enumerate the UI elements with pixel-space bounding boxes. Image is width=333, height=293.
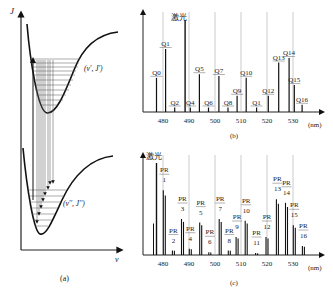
- y-axis-label: J: [10, 6, 15, 16]
- spectral-peak: PR10: [241, 197, 251, 255]
- peak-label: Q15: [288, 76, 301, 84]
- x-tick-label: 520: [262, 260, 273, 268]
- panel-b-q-branch-spectrum: Q0Q1Q2Q4Q5Q6Q7Q8Q9Q10Q1Q12Q13Q14Q15Q16 4…: [143, 12, 322, 140]
- peak-label: PR: [252, 229, 261, 237]
- emission-transitions: [37, 60, 53, 222]
- spectral-peak: PR11: [252, 229, 262, 255]
- x-tick-label: 510: [236, 117, 247, 125]
- upper-state-label: (v', J'): [84, 64, 103, 73]
- peak-label: PR: [282, 179, 291, 187]
- peak-label: Q6: [204, 99, 213, 107]
- x-tick-label: 490: [184, 117, 195, 125]
- spectral-peak: Q1: [251, 99, 263, 113]
- peak-number: 15: [291, 211, 299, 219]
- x-tick-label: 500: [210, 260, 221, 268]
- peak-label: PR: [169, 227, 178, 235]
- spectral-peak: PR8: [224, 227, 234, 256]
- spectral-peak: Q12: [262, 87, 275, 112]
- spectral-peak: PR16: [298, 222, 308, 255]
- peak-number: 4: [189, 235, 193, 243]
- peak-label: Q16: [296, 96, 309, 104]
- spectral-peak: PR7: [215, 195, 225, 255]
- peak-number: 11: [253, 239, 260, 247]
- peak-number: 5: [199, 209, 203, 217]
- peak-label: PR: [186, 225, 195, 233]
- spectroscopy-figure: J v (v', J') (v: [0, 0, 333, 293]
- spectral-peak: PR9: [232, 213, 242, 255]
- spectral-peak: Q13: [273, 54, 286, 113]
- spectral-peak: PR2: [168, 227, 178, 256]
- lower-state-label: (v'', J''): [63, 199, 85, 208]
- spectral-peak: Q10: [240, 69, 253, 112]
- spectral-peak: Q4: [184, 99, 196, 113]
- spectral-peak: Q16: [296, 96, 309, 112]
- x-tick-label: 500: [210, 117, 221, 125]
- peak-label: Q12: [262, 87, 275, 95]
- peak-label: PR: [178, 195, 187, 203]
- spectral-peak: PR15: [289, 201, 299, 255]
- peak-number: 7: [218, 205, 222, 213]
- peak-label: Q10: [240, 69, 253, 77]
- peak-number: 6: [208, 238, 212, 246]
- peak-number: 3: [181, 205, 185, 213]
- spectral-peak: PR5: [196, 199, 206, 255]
- panel-a-caption: (a): [60, 274, 69, 283]
- peak-label: Q14: [283, 49, 296, 57]
- spectral-peak: PR6: [205, 228, 215, 255]
- peak-label: Q1: [252, 99, 261, 107]
- peak-label: PR: [242, 197, 251, 205]
- peak-number: 8: [228, 237, 232, 245]
- upper-potential-curve: [27, 24, 118, 113]
- peak-label: Q9: [233, 87, 242, 95]
- peak-number: 13: [274, 185, 282, 193]
- x-tick-label: 490: [184, 260, 195, 268]
- peak-label: PR: [216, 195, 225, 203]
- peak-number: 14: [283, 189, 291, 197]
- spectral-peak: PR13: [272, 175, 282, 255]
- peak-label: PR: [206, 228, 215, 236]
- peak-number: 9: [235, 223, 239, 231]
- panel-c-caption: (c): [230, 279, 238, 287]
- b-laser-label: 激光: [171, 12, 187, 22]
- panel-b-caption: (b): [230, 132, 239, 140]
- x-axis-label: v: [115, 255, 119, 264]
- peak-label: PR: [263, 213, 272, 221]
- peak-number: 12: [264, 223, 272, 231]
- peak-label: Q1: [161, 40, 170, 48]
- x-tick-label: 530: [288, 260, 299, 268]
- spectral-peak: PR4: [185, 225, 195, 255]
- peak-label: Q8: [224, 99, 233, 107]
- lower-potential-curve: [23, 148, 113, 234]
- peak-number: 2: [172, 237, 176, 245]
- peak-label: Q2: [170, 99, 179, 107]
- panel-a-energy-diagram: J v (v', J') (v: [10, 6, 120, 283]
- peak-label: PR: [196, 199, 205, 207]
- peak-number: 16: [300, 232, 308, 240]
- panel-c-pr-branch-spectrum: PR1PR2PR3PR4PR5PR6PR7PR8PR9PR10PR11PR12P…: [143, 151, 322, 287]
- x-tick-label: 530: [288, 117, 299, 125]
- peak-label: Q0: [152, 69, 161, 77]
- peak-label: PR: [233, 213, 242, 221]
- peak-label: PR: [225, 227, 234, 235]
- spectral-peak: PR1: [159, 166, 169, 255]
- b-unit-label: (nm): [308, 121, 322, 129]
- x-tick-label: 510: [236, 260, 247, 268]
- spectral-peak: Q6: [203, 99, 215, 113]
- x-tick-label: 480: [158, 260, 169, 268]
- c-unit-label: (nm): [308, 264, 322, 272]
- c-laser-label: 激光: [146, 151, 162, 161]
- spectral-peak: Q15: [288, 76, 301, 112]
- peak-number: 10: [243, 207, 251, 215]
- peak-label: PR: [160, 166, 169, 174]
- spectral-peak: Q2: [169, 99, 181, 113]
- peak-label: Q5: [195, 65, 204, 73]
- peak-label: PR: [290, 201, 299, 209]
- peak-label: PR: [299, 222, 308, 230]
- peak-label: PR: [273, 175, 282, 183]
- x-tick-label: 520: [262, 117, 273, 125]
- x-tick-label: 480: [158, 117, 169, 125]
- spectral-peak: Q8: [222, 99, 234, 113]
- peak-number: 1: [163, 176, 167, 184]
- spectral-peak: Q0: [151, 69, 163, 112]
- peak-label: Q4: [186, 99, 195, 107]
